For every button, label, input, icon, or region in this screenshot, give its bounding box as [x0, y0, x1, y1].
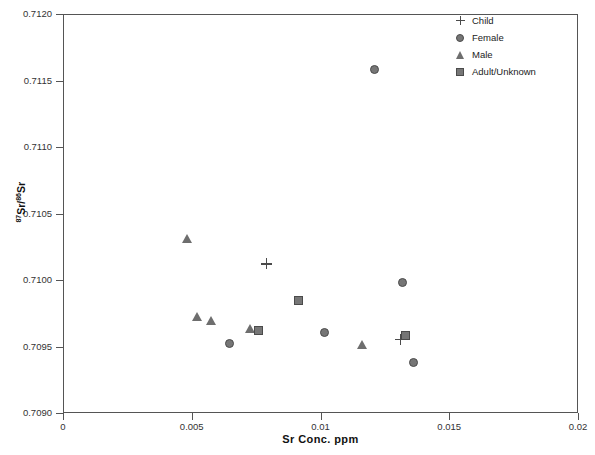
data-point-female	[225, 339, 234, 348]
legend-label: Female	[472, 32, 504, 44]
square-marker-icon	[401, 331, 410, 340]
legend-label: Child	[472, 15, 494, 27]
y-tick-mark	[56, 347, 63, 348]
y-tick-mark	[56, 14, 63, 15]
legend-marker	[452, 66, 468, 78]
y-tick-label: 0.7100	[2, 274, 52, 285]
y-tick-label: 0.7095	[2, 341, 52, 352]
legend: ChildFemaleMaleAdult/Unknown	[452, 12, 536, 80]
x-tick-mark	[449, 413, 450, 420]
circle-marker-icon	[320, 328, 329, 337]
data-point-female	[409, 358, 418, 367]
legend-marker	[452, 49, 468, 61]
x-tick-mark	[192, 413, 193, 420]
data-point-female	[370, 65, 379, 74]
y-axis-title: 87Sr/86Sr	[15, 157, 28, 247]
x-tick-label: 0	[38, 421, 88, 432]
y-axis-title-sr2: Sr	[15, 182, 27, 193]
data-point-female	[320, 328, 329, 337]
data-point-adult-unknown	[254, 326, 263, 335]
legend-item-female: Female	[452, 29, 536, 46]
data-point-male	[182, 234, 192, 243]
legend-item-adult-unknown: Adult/Unknown	[452, 63, 536, 80]
circle-marker-icon	[456, 34, 464, 42]
y-tick-label: 0.7110	[2, 141, 52, 152]
circle-marker-icon	[225, 339, 234, 348]
x-tick-mark	[321, 413, 322, 420]
legend-label: Adult/Unknown	[472, 66, 536, 78]
triangle-marker-icon	[456, 51, 464, 59]
data-point-adult-unknown	[401, 331, 410, 340]
data-point-female	[398, 278, 407, 287]
legend-item-child: Child	[452, 12, 536, 29]
data-point-male	[245, 324, 255, 333]
x-tick-label: 0.005	[167, 421, 217, 432]
data-point-male	[206, 316, 216, 325]
y-tick-label: 0.7115	[2, 75, 52, 86]
legend-label: Male	[472, 49, 493, 61]
square-marker-icon	[294, 296, 303, 305]
square-marker-icon	[254, 326, 263, 335]
y-tick-mark	[56, 413, 63, 414]
y-tick-label: 0.7120	[2, 8, 52, 19]
triangle-marker-icon	[245, 324, 255, 333]
scatter-chart: 0.70900.70950.71000.71050.71100.71150.71…	[0, 0, 595, 455]
y-tick-mark	[56, 280, 63, 281]
y-tick-mark	[56, 147, 63, 148]
data-point-child	[261, 258, 272, 269]
square-marker-icon	[456, 68, 464, 76]
x-tick-label: 0.015	[424, 421, 474, 432]
legend-item-male: Male	[452, 46, 536, 63]
data-point-adult-unknown	[294, 296, 303, 305]
circle-marker-icon	[409, 358, 418, 367]
cross-marker-icon	[456, 16, 465, 25]
x-axis-title: Sr Conc. ppm	[63, 433, 578, 445]
legend-marker	[452, 15, 468, 27]
y-tick-label: 0.7090	[2, 407, 52, 418]
legend-marker	[452, 32, 468, 44]
data-point-male	[357, 340, 367, 349]
x-tick-mark	[63, 413, 64, 420]
y-tick-mark	[56, 81, 63, 82]
cross-marker-icon	[261, 258, 272, 269]
triangle-marker-icon	[182, 234, 192, 243]
x-tick-label: 0.02	[553, 421, 595, 432]
x-tick-mark	[578, 413, 579, 420]
data-point-male	[192, 312, 202, 321]
y-axis-title-sup-86: 86	[15, 193, 22, 201]
triangle-marker-icon	[357, 340, 367, 349]
x-tick-label: 0.01	[296, 421, 346, 432]
triangle-marker-icon	[206, 316, 216, 325]
triangle-marker-icon	[192, 312, 202, 321]
y-axis-title-sup-87: 87	[15, 215, 22, 223]
circle-marker-icon	[398, 278, 407, 287]
circle-marker-icon	[370, 65, 379, 74]
y-tick-mark	[56, 214, 63, 215]
y-axis-title-sr1: Sr/	[15, 201, 27, 215]
